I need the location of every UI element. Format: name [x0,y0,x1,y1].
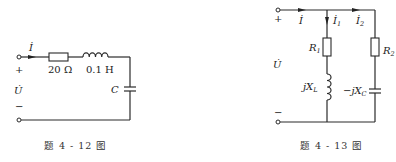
current1-label: İ1 [332,15,341,28]
current-arrow-icon [298,8,306,12]
resistor-r1 [323,38,331,56]
current2-label: İ2 [355,15,364,28]
current-label: İ [298,15,304,26]
minus-sign: − [15,101,23,112]
figure-4-13: + İ İ1 İ2 R1 R2 U̇ jXL −jXC − 题 4 - 13 图 [273,8,395,151]
figure-caption: 题 4 - 12 图 [44,140,107,151]
minus-sign: − [274,107,282,118]
plus-sign: + [15,64,23,75]
terminal-bottom [17,118,21,122]
r2-label: R2 [382,45,395,58]
voltage-label: U̇ [273,59,282,70]
capacitor-label: C [111,84,119,95]
inductor-label: jXL [301,81,318,94]
current-arrow-icon [28,55,36,59]
resistor-r2 [371,38,379,56]
figure-4-12: İ + U̇ − 20 Ω 0.1 H C 题 4 - 12 图 [14,42,136,151]
inductor-0.1H [83,53,108,57]
terminal-top [276,8,280,12]
terminal-bottom [276,120,280,124]
inductor-jxl [327,74,331,100]
plus-sign: + [274,13,282,24]
r1-label: R1 [308,42,321,55]
capacitor-label: −jXC [343,85,367,98]
inductor-label: 0.1 H [86,64,114,75]
resistor-label: 20 Ω [48,64,72,75]
current-label: İ [28,42,34,53]
voltage-label: U̇ [14,85,23,96]
terminal-top [17,55,21,59]
current2-arrow-icon [352,8,360,12]
figure-caption: 题 4 - 13 图 [300,140,363,151]
resistor-20ohm [49,53,68,61]
current1-arrow-icon [325,17,329,25]
circuit-diagrams: İ + U̇ − 20 Ω 0.1 H C 题 4 - 12 图 + [0,0,396,162]
